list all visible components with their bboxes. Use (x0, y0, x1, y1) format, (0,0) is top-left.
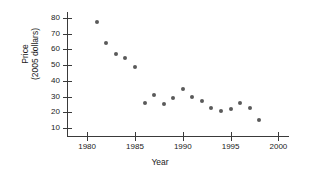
y-tick-label: 30 (51, 93, 60, 101)
data-point (248, 106, 252, 110)
data-point (123, 56, 127, 60)
data-point (209, 106, 213, 110)
data-point (143, 101, 147, 105)
y-axis-title: Price (2005 dollars) (20, 8, 40, 100)
data-point (162, 102, 166, 106)
y-tick-label: 70 (51, 30, 60, 38)
y-axis-title-line1: Price (20, 8, 30, 100)
chart-figure: 1020304050607080 19801985199019952000 Pr… (0, 0, 320, 178)
data-point (95, 20, 99, 24)
y-tick-label: 80 (51, 14, 60, 22)
y-tick-label: 20 (51, 108, 60, 116)
x-axis-line (67, 136, 289, 137)
y-tick-label: 40 (51, 77, 60, 85)
data-point (190, 95, 194, 99)
data-point (181, 87, 185, 91)
data-point (238, 101, 242, 105)
y-tick-label: 60 (51, 45, 60, 53)
data-point (133, 65, 137, 69)
y-axis-title-line2: (2005 dollars) (30, 8, 40, 100)
x-tick-label: 1995 (216, 143, 246, 151)
data-point (229, 107, 233, 111)
y-tick-label: 10 (51, 124, 60, 132)
data-point (171, 96, 175, 100)
data-point (152, 93, 156, 97)
x-tick-label: 1980 (72, 143, 102, 151)
data-point (219, 109, 223, 113)
data-point (200, 99, 204, 103)
scatter-plot-area (68, 13, 288, 136)
x-tick-label: 1985 (120, 143, 150, 151)
data-point (257, 118, 261, 122)
y-tick-label: 50 (51, 61, 60, 69)
data-point (104, 41, 108, 45)
x-tick-label: 1990 (168, 143, 198, 151)
x-tick-label: 2000 (263, 143, 293, 151)
x-axis-title: Year (0, 157, 320, 167)
data-point (114, 52, 118, 56)
